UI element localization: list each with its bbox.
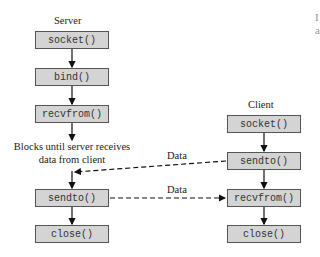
server-recvfrom-box: recvfrom() [35, 105, 109, 123]
client-title: Client [248, 99, 274, 110]
clipped-edge-text-2: a [315, 24, 320, 36]
server-socket-box: socket() [35, 31, 109, 49]
data-label-client-to-server: Data [167, 150, 187, 161]
client-recvfrom-box: recvfrom() [227, 189, 301, 207]
server-sendto-box: sendto() [35, 189, 109, 207]
client-socket-box: socket() [227, 115, 301, 133]
client-sendto-box: sendto() [227, 152, 301, 170]
data-label-server-to-client: Data [167, 184, 187, 195]
server-close-box: close() [35, 225, 109, 243]
block-note-line2: data from client [0, 154, 144, 165]
client-close-box: close() [227, 225, 301, 243]
server-title: Server [54, 15, 81, 26]
clipped-edge-text-1: I [315, 11, 319, 23]
server-bind-box: bind() [35, 68, 109, 86]
block-note-line1: Blocks until server receives [0, 141, 144, 152]
